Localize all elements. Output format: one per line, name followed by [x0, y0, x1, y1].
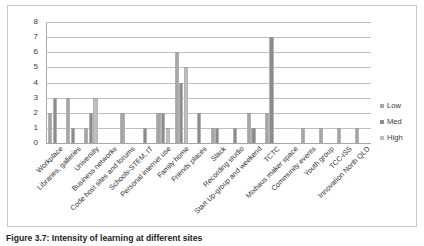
bar	[197, 113, 201, 143]
bar-group	[209, 22, 227, 143]
bar-group	[82, 22, 100, 143]
bar	[84, 128, 88, 143]
legend-label: Low	[387, 102, 401, 110]
figure-root: 876543210 WorkplaceLibraries, galleriesU…	[0, 0, 424, 246]
y-axis-tick: 8	[34, 18, 38, 26]
bar-group	[335, 22, 353, 143]
bar-group	[172, 22, 190, 143]
bar	[156, 113, 160, 143]
bar-group	[154, 22, 172, 143]
bars-layer	[46, 22, 371, 143]
bar-group	[281, 22, 299, 143]
plot-area	[46, 22, 371, 143]
bar-group	[64, 22, 82, 143]
bar	[175, 52, 179, 143]
legend-swatch-icon	[380, 104, 384, 108]
bar	[48, 113, 52, 143]
y-axis-tick: 3	[34, 94, 38, 102]
bar-group	[136, 22, 154, 143]
y-axis-tick: 4	[34, 79, 38, 87]
bar	[184, 67, 188, 143]
bar	[269, 37, 273, 143]
legend-item[interactable]: Low	[380, 98, 424, 114]
y-axis-tick: 0	[34, 139, 38, 147]
bar	[211, 128, 215, 143]
bar	[53, 98, 57, 143]
y-axis-tick: 2	[34, 109, 38, 117]
bar	[161, 113, 165, 143]
legend-item[interactable]: Med	[380, 114, 424, 130]
y-axis-tick: 5	[34, 63, 38, 71]
bar-group	[353, 22, 371, 143]
bar	[89, 113, 93, 143]
bar-group	[190, 22, 208, 143]
legend-label: Med	[387, 118, 402, 126]
bar	[215, 128, 219, 143]
legend-item[interactable]: High	[380, 130, 424, 146]
bar-group	[299, 22, 317, 143]
figure-caption: Figure 3.7: Intensity of learning at dif…	[6, 233, 418, 243]
y-axis-tick: 7	[34, 33, 38, 41]
bar	[337, 128, 341, 143]
bar	[355, 128, 359, 143]
y-axis-tick-labels: 876543210	[22, 22, 42, 143]
bar-group	[46, 22, 64, 143]
bar-group	[100, 22, 118, 143]
bar-group	[227, 22, 245, 143]
chart-legend: LowMedHigh	[380, 98, 424, 146]
bar	[66, 98, 70, 143]
bar-group	[263, 22, 281, 143]
bar	[179, 83, 183, 144]
x-axis-category-labels: WorkplaceLibraries, galleriesUniversityB…	[46, 145, 371, 227]
y-axis-tick: 1	[34, 124, 38, 132]
legend-swatch-icon	[380, 120, 384, 124]
bar	[233, 128, 237, 143]
legend-label: High	[387, 134, 403, 142]
bar	[166, 128, 170, 143]
bar	[71, 128, 75, 143]
bar	[93, 98, 97, 143]
legend-swatch-icon	[380, 136, 384, 140]
bar-group	[245, 22, 263, 143]
bar	[265, 113, 269, 143]
bar-group	[317, 22, 335, 143]
bar	[301, 128, 305, 143]
bar	[251, 128, 255, 143]
bar	[319, 128, 323, 143]
bar	[143, 128, 147, 143]
bar	[120, 113, 124, 143]
y-axis-tick: 6	[34, 48, 38, 56]
chart-frame: 876543210 WorkplaceLibraries, galleriesU…	[7, 5, 417, 227]
bar	[247, 113, 251, 143]
bar-group	[118, 22, 136, 143]
